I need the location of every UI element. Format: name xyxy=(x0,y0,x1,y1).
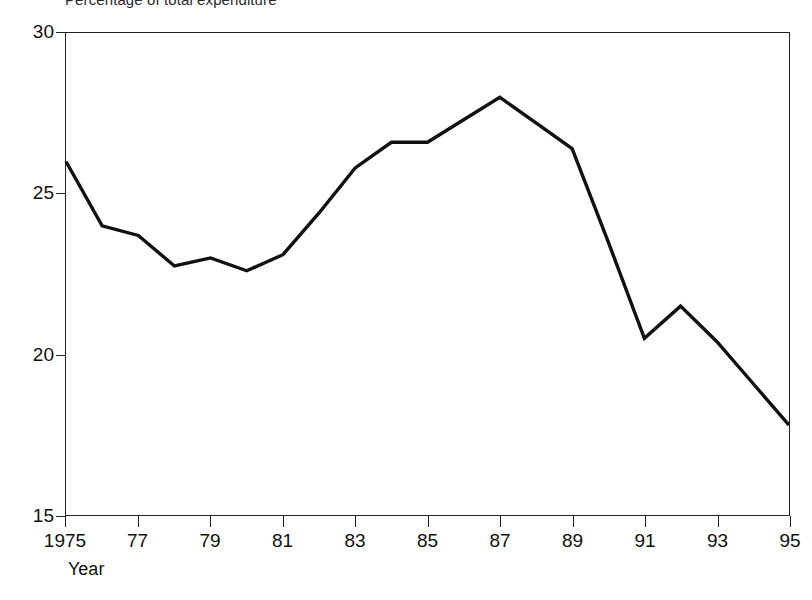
x-axis-tick-mark xyxy=(428,516,429,527)
x-axis-tick-mark xyxy=(573,516,574,527)
series-polyline xyxy=(66,97,789,425)
x-axis-tick-mark xyxy=(645,516,646,527)
x-axis-tick-mark xyxy=(210,516,211,527)
x-axis-tick-label: 89 xyxy=(562,530,583,551)
x-axis-tick-label: 95 xyxy=(779,530,800,551)
x-axis-tick-label: 81 xyxy=(272,530,293,551)
x-axis-tick-label: 83 xyxy=(344,530,365,551)
x-axis-tick-label: 1975 xyxy=(44,530,86,551)
x-axis-tick-label: 85 xyxy=(417,530,438,551)
x-axis-tick-label: 77 xyxy=(127,530,148,551)
x-axis-title: Year xyxy=(68,559,104,579)
x-axis-tick-label: 79 xyxy=(199,530,220,551)
x-axis-tick-mark xyxy=(283,516,284,527)
x-axis-tick-mark xyxy=(355,516,356,527)
x-axis-tick-label: 93 xyxy=(707,530,728,551)
x-axis-tick-label: 91 xyxy=(634,530,655,551)
x-axis-tick-mark xyxy=(790,516,791,527)
x-axis-tick-mark xyxy=(138,516,139,527)
plot-area xyxy=(65,32,790,516)
x-axis-tick-label: 87 xyxy=(489,530,510,551)
chart-figure: Percentage of total expenditure 15202530… xyxy=(0,0,812,600)
x-axis-tick-mark xyxy=(500,516,501,527)
x-axis-tick-mark xyxy=(65,516,66,527)
data-series-line xyxy=(66,33,789,515)
x-axis-tick-mark xyxy=(718,516,719,527)
